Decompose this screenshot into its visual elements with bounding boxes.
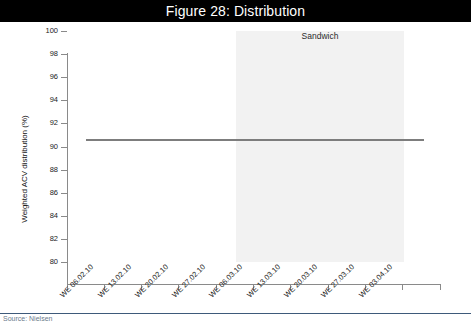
y-axis-line (67, 53, 68, 285)
x-tick-label: WE 06.03.10 (207, 262, 244, 299)
y-tick-label: 80 (36, 257, 58, 266)
y-tick-label-wrap: 82 (36, 234, 58, 244)
y-tick-label-wrap: 80 (36, 257, 58, 267)
x-tick-mark (440, 285, 441, 290)
y-tick-label-wrap: 92 (36, 118, 58, 128)
x-tick-label: WE 13.02.10 (96, 262, 133, 299)
series-line-weighted-acv (86, 139, 424, 141)
y-tick-label-wrap: 88 (36, 165, 58, 175)
y-tick-label: 82 (36, 234, 58, 243)
y-tick-label: 98 (36, 49, 58, 58)
y-tick-label-wrap: 94 (36, 95, 58, 105)
y-tick-label: 96 (36, 72, 58, 81)
plot-area (67, 31, 440, 262)
x-tick-label: WE 20.02.10 (133, 262, 170, 299)
y-tick-label-wrap: 86 (36, 188, 58, 198)
y-tick-label-wrap: 98 (36, 49, 58, 59)
y-tick-label: 100 (36, 26, 58, 35)
figure-body: Weighted ACV distribution (%) 100 98 96 … (0, 22, 471, 311)
y-tick-label: 88 (36, 165, 58, 174)
sandwich-shaded-band (236, 31, 404, 262)
x-tick-label: WE 20.03.10 (282, 262, 319, 299)
x-tick-label: WE 13.03.10 (245, 262, 282, 299)
y-tick-label-wrap: 100 (36, 26, 58, 36)
figure-title-bar: Figure 28: Distribution (0, 0, 471, 22)
y-axis-title: Weighted ACV distribution (%) (20, 53, 34, 285)
y-tick-label: 86 (36, 188, 58, 197)
x-tick-label: WE 27.03.10 (319, 262, 356, 299)
footer-divider (0, 313, 471, 314)
source-note: Source: Nielsen (3, 315, 52, 322)
y-tick-label: 84 (36, 211, 58, 220)
y-tick-label: 94 (36, 95, 58, 104)
x-tick-label: WE 06.02.10 (58, 262, 95, 299)
figure-title: Figure 28: Distribution (166, 0, 305, 22)
y-tick-label: 92 (36, 118, 58, 127)
sandwich-annotation-label: Sandwich (236, 31, 404, 41)
y-tick-label-wrap: 90 (36, 142, 58, 152)
y-tick-label-wrap: 84 (36, 211, 58, 221)
y-tick-label-wrap: 96 (36, 72, 58, 82)
x-tick-mark (402, 285, 403, 290)
y-tick-label: 90 (36, 142, 58, 151)
x-tick-label: WE 03.04.10 (357, 262, 394, 299)
x-tick-label: WE 27.02.10 (170, 262, 207, 299)
